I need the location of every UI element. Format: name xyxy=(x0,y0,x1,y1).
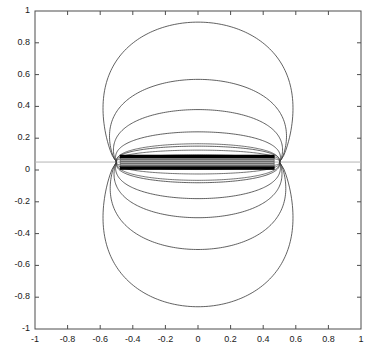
y-tick-label: -0.8 xyxy=(14,292,30,301)
y-tick-label: -0.6 xyxy=(14,260,30,269)
y-tick-label: 0.6 xyxy=(17,70,30,79)
x-tick-label: 1 xyxy=(341,335,380,344)
y-tick-label: -1 xyxy=(22,324,30,333)
y-tick-label: 1 xyxy=(25,6,30,15)
plot-frame xyxy=(35,11,361,329)
y-tick-label: -0.2 xyxy=(14,197,30,206)
y-tick-label: -0.4 xyxy=(14,229,30,238)
strip-bar-upper xyxy=(120,155,275,158)
figure-root: -1-0.8-0.6-0.4-0.200.20.40.60.81-1-0.8-0… xyxy=(0,0,380,355)
y-tick-label: 0 xyxy=(25,165,30,174)
y-tick-label: 0.2 xyxy=(17,133,30,142)
y-tick-label: 0.8 xyxy=(17,38,30,47)
y-tick-label: 0.4 xyxy=(17,101,30,110)
contour-plot-svg xyxy=(0,0,380,355)
strip-bar-lower xyxy=(120,166,275,169)
source-strip xyxy=(120,155,275,170)
